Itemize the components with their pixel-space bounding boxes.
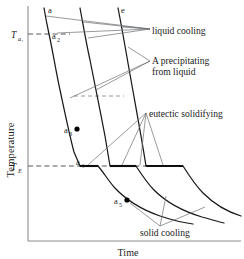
point-a4-sub: 4 — [81, 163, 84, 169]
curve-label-a: a — [48, 5, 52, 15]
marker-dot-a5 — [124, 197, 129, 202]
leader-lines-eutectic-solidifying — [88, 113, 163, 165]
point-a5-sub: 5 — [119, 202, 122, 208]
t-a1-sub: a₁ — [18, 35, 23, 42]
point-a2-main: a — [52, 31, 56, 41]
leader-precip-a — [70, 61, 150, 98]
leader-lines-a-precipitating — [70, 47, 150, 98]
leader-precip-e — [128, 47, 150, 61]
cooling-curve-svg: a e T a₁ T E a 2 a 3 a 4 a 5 liquid cool… — [0, 0, 244, 259]
t-a1-main: T — [11, 30, 17, 40]
cooling-curve-figure: a e T a₁ T E a 2 a 3 a 4 a 5 liquid cool… — [0, 0, 244, 259]
y-tick-t-a1: T a₁ — [11, 30, 23, 42]
curve-a-upper — [44, 8, 80, 166]
annotation-solid-cooling: solid cooling — [140, 227, 190, 238]
point-a3-main: a — [64, 125, 68, 135]
curve-intermediate-solid-cooling — [136, 166, 224, 223]
annotation-a-precipitating: A precipitating from liquid — [152, 55, 209, 77]
point-label-a5: a 5 — [114, 196, 122, 208]
t-e-sub: E — [17, 167, 22, 174]
curve-label-e: e — [121, 5, 125, 15]
curve-e-solid-cooling — [183, 166, 241, 216]
leader-lines-liquid-cooling — [46, 16, 150, 38]
point-a2-sub: 2 — [57, 37, 60, 43]
annotation-a-precipitating-line2: from liquid — [152, 66, 196, 77]
marker-dot-a3 — [74, 126, 79, 131]
x-axis-label: Time — [118, 247, 139, 258]
point-label-a4: a 4 — [76, 157, 84, 169]
leader-eutectic-a — [88, 113, 146, 165]
point-a5-main: a — [114, 196, 118, 206]
leader-eutectic-mid — [122, 113, 146, 165]
point-a3-sub: 3 — [69, 131, 72, 137]
y-axis-label: Temperature — [5, 122, 16, 177]
point-a4-main: a — [76, 157, 80, 167]
leader-precip-mid — [96, 61, 150, 90]
annotation-liquid-cooling: liquid cooling — [152, 25, 206, 36]
leader-solid-mid — [160, 196, 166, 226]
annotation-a-precipitating-line1: A precipitating — [152, 55, 209, 66]
annotation-eutectic-solidifying: eutectic solidifying — [149, 108, 223, 119]
leader-eutectic-e-right — [146, 113, 163, 165]
